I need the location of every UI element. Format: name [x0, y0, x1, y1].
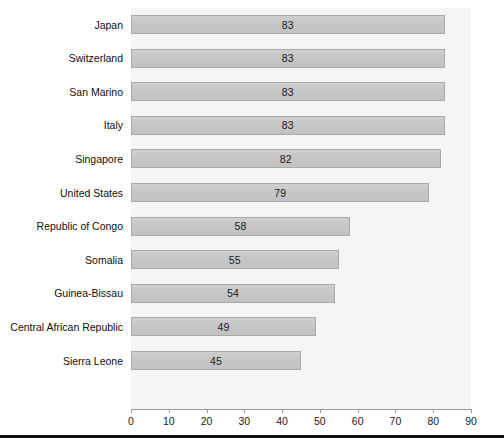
bar-row: 45: [131, 351, 471, 370]
bar-row: 58: [131, 217, 471, 236]
category-label: Switzerland: [69, 52, 123, 64]
bar-value-label: 82: [280, 153, 292, 165]
x-axis-tick: [244, 409, 245, 413]
x-axis-tick-label: 90: [465, 415, 477, 427]
x-axis-tick: [358, 409, 359, 413]
bar-value-label: 49: [218, 321, 230, 333]
bar-row: 79: [131, 183, 471, 202]
category-label: Guinea-Bissau: [54, 287, 123, 299]
x-axis-tick-label: 70: [390, 415, 402, 427]
category-label: Singapore: [75, 153, 123, 165]
bar-row: 83: [131, 15, 471, 34]
category-label: Japan: [94, 19, 123, 31]
bar-row: 82: [131, 149, 471, 168]
bar-value-label: 55: [229, 254, 241, 266]
bar-row: 83: [131, 82, 471, 101]
category-label: San Marino: [69, 86, 123, 98]
plot-area: 8383838382795855544945: [131, 8, 471, 409]
x-axis-tick: [282, 409, 283, 413]
bar-value-label: 83: [282, 19, 294, 31]
bars-layer: 8383838382795855544945: [131, 8, 471, 409]
bar-value-label: 83: [282, 52, 294, 64]
category-label: Italy: [104, 119, 123, 131]
x-axis-tick: [320, 409, 321, 413]
x-axis-line: [131, 409, 472, 410]
x-axis-tick-label: 20: [201, 415, 213, 427]
x-axis-tick: [207, 409, 208, 413]
category-label: Republic of Congo: [37, 220, 123, 232]
category-label: United States: [60, 187, 123, 199]
x-axis-tick-label: 10: [163, 415, 175, 427]
x-axis-tick-label: 80: [427, 415, 439, 427]
page-bleed-text: [0, 440, 504, 447]
bottom-horizontal-rule: [0, 435, 504, 438]
bar-value-label: 83: [282, 119, 294, 131]
x-axis-tick: [395, 409, 396, 413]
x-axis-tick-label: 40: [276, 415, 288, 427]
x-axis-tick-label: 60: [352, 415, 364, 427]
category-label: Central African Republic: [10, 321, 123, 333]
bar-value-label: 54: [227, 287, 239, 299]
bar-value-label: 45: [210, 355, 222, 367]
x-axis-tick: [131, 409, 132, 413]
bar-row: 83: [131, 49, 471, 68]
bar-value-label: 79: [274, 187, 286, 199]
x-axis-tick: [433, 409, 434, 413]
horizontal-bar-chart: JapanSwitzerlandSan MarinoItalySingapore…: [0, 0, 504, 447]
x-axis-tick-label: 0: [128, 415, 134, 427]
x-axis-tick: [471, 409, 472, 413]
category-label: Somalia: [85, 254, 123, 266]
x-axis-tick-label: 30: [238, 415, 250, 427]
bar-value-label: 83: [282, 86, 294, 98]
bar-row: 55: [131, 250, 471, 269]
category-label: Sierra Leone: [63, 355, 123, 367]
x-axis-tick: [169, 409, 170, 413]
bar-row: 54: [131, 284, 471, 303]
bar-value-label: 58: [235, 220, 247, 232]
category-axis: JapanSwitzerlandSan MarinoItalySingapore…: [0, 8, 131, 409]
x-axis-tick-label: 50: [314, 415, 326, 427]
bar-row: 49: [131, 317, 471, 336]
bar-row: 83: [131, 116, 471, 135]
